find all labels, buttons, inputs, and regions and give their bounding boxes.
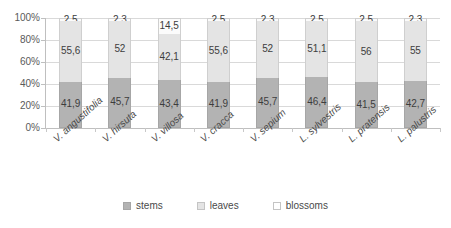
legend-label: blossoms bbox=[286, 201, 328, 211]
y-axis-tick bbox=[41, 106, 45, 107]
y-axis-tick bbox=[41, 40, 45, 41]
x-axis-tick bbox=[145, 128, 146, 132]
x-axis-tick bbox=[95, 128, 96, 132]
legend-item-stems[interactable]: stems bbox=[123, 201, 163, 211]
legend-label: leaves bbox=[210, 201, 239, 211]
y-axis-tick bbox=[41, 18, 45, 19]
legend-swatch-icon bbox=[273, 202, 281, 210]
y-axis-tick bbox=[41, 62, 45, 63]
x-axis-tick bbox=[46, 128, 47, 132]
chart-legend: stemsleavesblossoms bbox=[0, 198, 451, 214]
x-axis-category-label: L. palustris bbox=[395, 104, 438, 145]
y-axis-tick bbox=[41, 128, 45, 129]
x-axis-tick bbox=[440, 128, 441, 132]
legend-item-leaves[interactable]: leaves bbox=[197, 201, 239, 211]
legend-label: stems bbox=[136, 201, 163, 211]
y-axis-tick bbox=[41, 84, 45, 85]
x-axis-tick bbox=[292, 128, 293, 132]
x-axis-category-label: V. hirsuta bbox=[100, 108, 138, 144]
x-axis-category-label: V. cracca bbox=[198, 109, 236, 145]
x-axis-category-label: V. sepium bbox=[248, 107, 288, 144]
x-axis-tick bbox=[194, 128, 195, 132]
stacked-bar-chart: 100%80%60%40%20%0% 2,555,641,92,35245,71… bbox=[0, 0, 451, 228]
legend-swatch-icon bbox=[123, 202, 131, 210]
x-axis-category-label: V. villosa bbox=[149, 110, 186, 144]
x-axis-labels: V. angustifoliaV. hirsutaV. villosaV. cr… bbox=[0, 0, 451, 228]
legend-item-blossoms[interactable]: blossoms bbox=[273, 201, 328, 211]
x-axis-tick bbox=[342, 128, 343, 132]
legend-swatch-icon bbox=[197, 202, 205, 210]
x-axis-tick bbox=[391, 128, 392, 132]
x-axis-category-label: L. sylvestris bbox=[297, 101, 343, 144]
x-axis-tick bbox=[243, 128, 244, 132]
x-axis-category-label: L. pratensis bbox=[346, 101, 392, 144]
x-axis-category-label: V. angustifolia bbox=[51, 94, 104, 144]
